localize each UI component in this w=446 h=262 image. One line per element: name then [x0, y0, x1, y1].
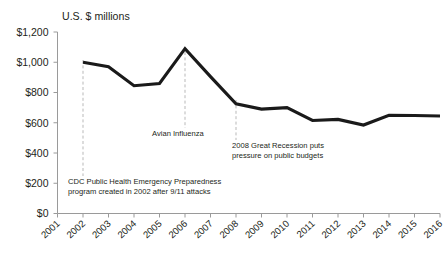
y-tick-label: $1,200 — [16, 26, 48, 38]
x-tick-label: 2013 — [345, 218, 368, 240]
y-axis-tick-labels: $0$200$400$600$800$1,000$1,200 — [16, 26, 48, 220]
annotation-avian-influenza-line1: Avian Influenza — [152, 129, 205, 138]
x-tick-label: 2006 — [166, 218, 189, 240]
y-tick-label: $200 — [25, 177, 49, 189]
x-tick-label: 2009 — [243, 218, 266, 240]
annotation-labels: CDC Public Health Emergency Preparedness… — [68, 129, 324, 196]
x-tick-label: 2014 — [370, 217, 394, 240]
y-tick-label: $400 — [25, 147, 49, 159]
x-tick-label: 2002 — [64, 218, 87, 240]
x-tick-label: 2005 — [141, 218, 164, 240]
x-tick-label: 2012 — [319, 218, 342, 240]
line-chart: $0$200$400$600$800$1,000$1,200 200120022… — [0, 0, 446, 262]
annotation-great-recession-line2: pressure on public budgets — [232, 151, 323, 160]
x-tick-label: 2007 — [192, 218, 215, 240]
x-tick-label: 2004 — [115, 217, 139, 240]
annotation-great-recession-line1: 2008 Great Recession puts — [232, 141, 324, 150]
x-axis-ticks — [58, 214, 441, 218]
annotation-cdc-phep-line1: CDC Public Health Emergency Preparedness — [68, 177, 221, 186]
y-tick-label: $600 — [25, 117, 49, 129]
y-axis-ticks — [54, 32, 58, 214]
x-tick-label: 2003 — [90, 218, 113, 240]
x-tick-label: 2011 — [294, 218, 317, 240]
x-tick-label: 2015 — [396, 218, 419, 240]
y-tick-label: $1,000 — [16, 56, 48, 68]
x-tick-label: 2008 — [217, 218, 240, 240]
annotation-cdc-phep-line2: program created in 2002 after 9/11 attac… — [68, 187, 211, 196]
x-tick-label: 2016 — [421, 218, 444, 240]
axis-unit-label: U.S. $ millions — [62, 10, 130, 22]
y-tick-label: $0 — [37, 207, 49, 219]
y-tick-label: $800 — [25, 86, 49, 98]
x-tick-label: 2010 — [268, 218, 291, 240]
chart-canvas: $0$200$400$600$800$1,000$1,200 200120022… — [0, 0, 446, 262]
annotation-leader-lines — [83, 52, 236, 176]
data-series-line — [83, 49, 440, 125]
x-tick-label: 2001 — [39, 218, 62, 240]
x-axis-tick-labels: 2001200220032004200520062007200820092010… — [39, 217, 445, 240]
